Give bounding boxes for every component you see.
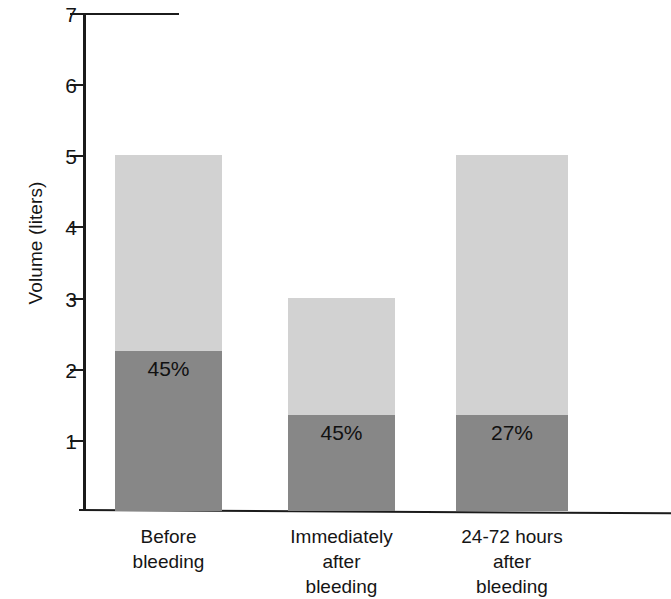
category-label-line: 24-72 hours [424, 524, 600, 549]
bar-value-label: 27% [456, 422, 568, 443]
y-tick-label: 2 [17, 359, 77, 380]
bar-1: 45% [115, 155, 222, 511]
y-tick-label: 6 [17, 75, 77, 96]
bar-value-label: 45% [115, 358, 222, 379]
category-label-line: bleeding [256, 574, 427, 599]
y-axis-top-cap [83, 13, 179, 15]
bar-segment-plasma [115, 155, 222, 351]
category-label-line: after [424, 549, 600, 574]
y-tick-label: 3 [17, 288, 77, 309]
y-axis-line [83, 13, 86, 511]
category-label-line: Immediately [256, 524, 427, 549]
bar-3: 27% [456, 155, 568, 511]
bar-segment-plasma [456, 155, 568, 415]
category-label-1: Beforebleeding [83, 524, 254, 574]
category-label-line: Before [83, 524, 254, 549]
bar-value-label: 45% [288, 422, 395, 443]
y-tick-label: 5 [17, 146, 77, 167]
y-tick-label: 7 [17, 4, 77, 25]
bar-2: 45% [288, 298, 395, 511]
category-label-line: bleeding [83, 549, 254, 574]
category-label-2: Immediatelyafterbleeding [256, 524, 427, 599]
y-tick-label: 4 [17, 217, 77, 238]
category-label-line: after [256, 549, 427, 574]
bar-segment-plasma [288, 298, 395, 415]
category-label-3: 24-72 hoursafterbleeding [424, 524, 600, 599]
y-tick-label: 1 [17, 430, 77, 451]
category-label-line: bleeding [424, 574, 600, 599]
plot-area: 1234567 45%45%27% [83, 13, 670, 511]
